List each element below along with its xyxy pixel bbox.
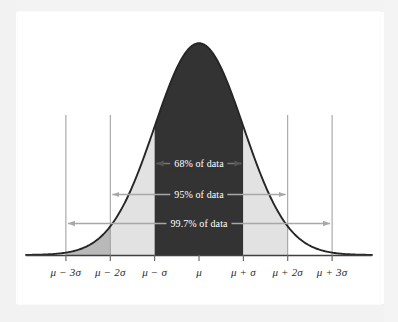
x-tick-label-minus-3-sigma: μ − 3σ: [51, 266, 82, 278]
figure-page: 68% of data 95% of data 99.7% of data μ …: [0, 0, 398, 322]
chart-figure: 68% of data 95% of data 99.7% of data μ …: [18, 12, 380, 304]
region-left-2-3-sigma: [66, 12, 110, 255]
x-tick-label-minus-1-sigma: μ − σ: [142, 266, 167, 278]
x-tick-label-plus-1-sigma: μ + σ: [231, 266, 256, 278]
annotation-label-95: 95% of data: [170, 189, 227, 200]
x-tick-label-mu: μ: [196, 266, 202, 278]
annotation-label-997: 99.7% of data: [166, 218, 231, 229]
x-tick-label-minus-2-sigma: μ − 2σ: [95, 266, 126, 278]
annotation-label-68: 68% of data: [170, 158, 227, 169]
x-tick-label-plus-3-sigma: μ + 3σ: [317, 266, 348, 278]
x-tick-label-plus-2-sigma: μ + 2σ: [272, 266, 303, 278]
region-right-1-2-sigma: [243, 12, 287, 255]
region-left-1-2-sigma: [110, 12, 154, 255]
